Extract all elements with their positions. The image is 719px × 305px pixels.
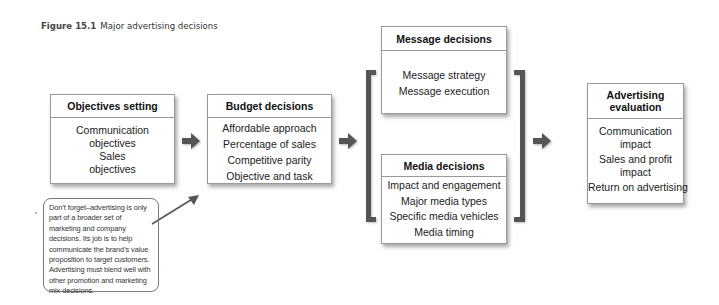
- media-item: Major media types: [382, 194, 506, 210]
- callout-note: Don’t forget–advertising is only part of…: [43, 198, 159, 292]
- objectives-setting-title: Objectives setting: [51, 95, 174, 118]
- evaluation-item: Sales and profit impact: [596, 153, 676, 178]
- decorative-dot: [35, 212, 37, 214]
- arrow-right-icon: [533, 133, 551, 149]
- objectives-item: Sales objectives: [83, 150, 143, 175]
- advertising-evaluation-box: Advertising evaluation Communication imp…: [587, 83, 684, 204]
- budget-decisions-box: Budget decisions Affordable approach Per…: [207, 94, 332, 184]
- media-decisions-box: Media decisions Impact and engagement Ma…: [381, 154, 507, 244]
- budget-item: Affordable approach: [208, 120, 331, 136]
- right-bracket: [514, 70, 525, 222]
- budget-item: Competitive parity: [208, 152, 331, 168]
- objectives-setting-box: Objectives setting Communication objecti…: [50, 94, 175, 184]
- figure-caption: Figure 15.1Major advertising decisions: [41, 20, 241, 32]
- message-item: Message strategy: [382, 67, 506, 83]
- media-item: Impact and engagement: [382, 178, 506, 194]
- evaluation-item: Return on advertising: [588, 181, 683, 194]
- arrow-right-icon: [339, 133, 357, 149]
- figure-label: Figure 15.1: [41, 21, 96, 31]
- message-item: Message execution: [382, 83, 506, 99]
- evaluation-item: Communication impact: [596, 125, 676, 150]
- advertising-evaluation-title: Advertising evaluation: [588, 84, 683, 119]
- message-decisions-title: Message decisions: [382, 27, 506, 51]
- budget-decisions-title: Budget decisions: [208, 95, 331, 118]
- budget-item: Percentage of sales: [208, 136, 331, 152]
- media-decisions-title: Media decisions: [382, 155, 506, 177]
- media-item: Media timing: [382, 225, 506, 241]
- message-decisions-box: Message decisions Message strategy Messa…: [381, 26, 507, 114]
- objectives-item: Communication objectives: [73, 124, 153, 149]
- figure-title: Major advertising decisions: [100, 21, 217, 31]
- budget-item: Objective and task: [208, 168, 331, 184]
- left-bracket: [366, 70, 376, 222]
- media-item: Specific media vehicles: [382, 209, 506, 225]
- arrow-right-icon: [182, 133, 200, 149]
